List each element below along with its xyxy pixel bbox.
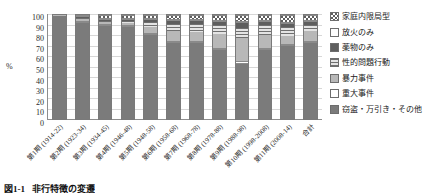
bar-segment-other (190, 43, 203, 119)
y-axis-title: % (6, 62, 13, 71)
bar-segment-other (304, 43, 317, 119)
bar-segment-violence (213, 34, 226, 48)
stacked-bar[interactable] (75, 14, 90, 120)
bar-segment-domestic (281, 15, 294, 22)
legend-item[interactable]: 薬物のみ (330, 40, 442, 55)
y-axis-tick: 90 (22, 25, 44, 33)
figure-container: % 1009080706050403020100 第1期 (1914-22)第2… (0, 0, 445, 193)
bar-segment-sexual (213, 25, 226, 33)
bar-segment-other (76, 23, 89, 119)
bar-segment-other (144, 35, 157, 119)
bar-segment-other (99, 26, 112, 119)
bar-segment-violence (304, 31, 317, 40)
y-axis-tick: 70 (22, 46, 44, 54)
figure-caption: 図1-1 非行特徴の変遷 (4, 184, 95, 193)
y-axis-tick: 30 (22, 88, 44, 96)
legend-item[interactable]: 重大事件 (330, 86, 442, 101)
y-axis-tick: 20 (22, 99, 44, 107)
striped-swatch (330, 58, 339, 67)
stacked-bar[interactable] (189, 14, 204, 120)
bar-segment-violence (167, 31, 180, 41)
legend-label: 家庭内限局型 (342, 12, 390, 21)
bar-slot (48, 14, 71, 120)
dark-gray-swatch (330, 43, 339, 52)
bar-segment-sexual (190, 24, 203, 32)
bar-slot (162, 14, 185, 120)
legend-label: 窃盗・万引き・その他 (342, 105, 422, 114)
y-axis: 1009080706050403020100 (18, 10, 44, 124)
bar-segment-sexual (167, 24, 180, 31)
bar-slot (71, 14, 94, 120)
y-axis-tick: 40 (22, 78, 44, 86)
bar-slot (299, 14, 322, 120)
bar-segment-sexual (236, 28, 249, 38)
legend-item[interactable]: 家庭内限局型 (330, 9, 442, 24)
legend-item[interactable]: 性的問題行動 (330, 55, 442, 70)
bar-slot (208, 14, 231, 120)
bar-slot (276, 14, 299, 120)
x-label-slot: 合計 (299, 121, 322, 185)
stacked-bar[interactable] (280, 14, 295, 120)
bar-segment-sexual (259, 25, 272, 34)
legend-item[interactable]: 暴力事件 (330, 71, 442, 86)
medium-gray-swatch (330, 105, 339, 114)
bar-segment-other (213, 50, 226, 119)
y-axis-tick: 80 (22, 35, 44, 43)
y-axis-tick: 60 (22, 56, 44, 64)
stacked-bar[interactable] (212, 14, 227, 120)
stacked-bar[interactable] (121, 14, 136, 120)
x-axis-labels: 第1期 (1914-22)第2期 (1923-34)第3期 (1934-45)第… (48, 121, 322, 185)
white-swatch (330, 28, 339, 37)
legend-label: 放火のみ (342, 28, 374, 37)
y-axis-tick: 100 (22, 14, 44, 22)
bar-slot (139, 14, 162, 120)
bar-slot (231, 14, 254, 120)
stacked-bar[interactable] (52, 14, 67, 120)
bar-series-group (48, 14, 322, 120)
bar-segment-other (281, 46, 294, 119)
legend-item[interactable]: 窃盗・万引き・その他 (330, 101, 442, 116)
bar-segment-violence (281, 36, 294, 44)
caption-text: 非行特徴の変遷 (32, 184, 95, 193)
bar-segment-violence (190, 32, 203, 41)
bar-segment-violence (259, 35, 272, 49)
y-axis-tick: 50 (22, 67, 44, 75)
chart-legend: 家庭内限局型放火のみ薬物のみ性的問題行動暴力事件重大事件窃盗・万引き・その他 (330, 9, 442, 117)
bar-segment-other (259, 50, 272, 119)
stacked-bar[interactable] (143, 14, 158, 120)
legend-label: 暴力事件 (342, 74, 374, 83)
y-axis-tick: 0 (22, 120, 44, 128)
stacked-bar[interactable] (258, 14, 273, 120)
bar-segment-other (167, 43, 180, 119)
x-axis-tick-label: 合計 (301, 123, 317, 139)
bar-segment-violence (236, 38, 249, 61)
stacked-bar[interactable] (303, 14, 318, 120)
stacked-bar[interactable] (235, 14, 250, 120)
stacked-bar[interactable] (166, 14, 181, 120)
bar-segment-other (53, 16, 66, 119)
bar-slot (253, 14, 276, 120)
stacked-bar[interactable] (98, 14, 113, 120)
bar-segment-other (122, 27, 135, 119)
bar-slot (94, 14, 117, 120)
caption-number: 図1-1 (4, 184, 25, 193)
bar-slot (116, 14, 139, 120)
white-swatch (330, 89, 339, 98)
legend-item[interactable]: 放火のみ (330, 24, 442, 39)
bar-slot (185, 14, 208, 120)
bar-segment-other (236, 64, 249, 119)
legend-label: 性的問題行動 (342, 58, 390, 67)
legend-label: 薬物のみ (342, 43, 374, 52)
x-label-slot: 第11期 (2008-14) (276, 121, 299, 185)
bar-segment-sexual (281, 27, 294, 35)
light-gray-swatch (330, 74, 339, 83)
y-axis-tick: 10 (22, 109, 44, 117)
legend-label: 重大事件 (342, 89, 374, 98)
dotted-swatch (330, 12, 339, 21)
